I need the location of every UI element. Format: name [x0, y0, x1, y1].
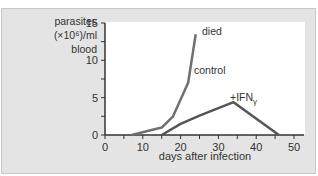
annotation-ifn: +IFNγ: [230, 91, 257, 106]
x-axis-label: days after infection: [130, 150, 280, 162]
y-tick-label: 5: [92, 92, 98, 104]
annotation-ifn-text: +IFN: [230, 91, 253, 103]
series-line-control: [131, 34, 195, 135]
y-tick-label: 0: [92, 129, 98, 141]
x-tick-label: 0: [102, 141, 108, 153]
annotation-ifn-subscript: γ: [253, 97, 257, 106]
x-tick-label: 50: [288, 141, 300, 153]
y-tick-label: 10: [86, 54, 98, 66]
series-line-ifn-gamma: [162, 102, 279, 135]
annotation-control: control: [194, 64, 226, 76]
y-tick-label: 15: [86, 17, 98, 29]
annotation-died: died: [202, 25, 222, 37]
